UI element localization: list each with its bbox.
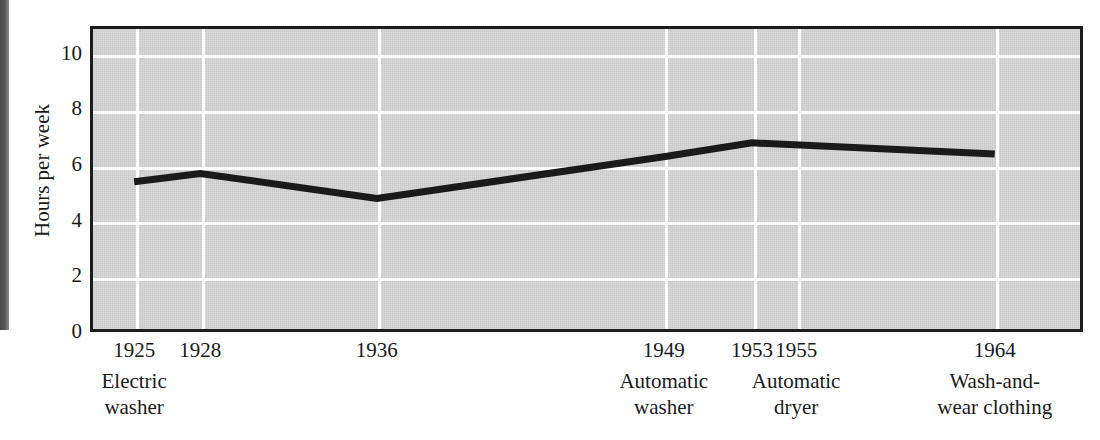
x-tick-label: 1925: [113, 339, 155, 361]
y-tick-label: 6: [42, 154, 82, 175]
y-tick-label: 4: [42, 210, 82, 231]
caption-line: wear clothing: [937, 394, 1052, 420]
caption-line: Automatic: [619, 368, 708, 394]
y-tick-label: 10: [42, 43, 82, 64]
x-tick-label: 1953: [731, 339, 773, 361]
x-tick-label: 1936: [356, 339, 398, 361]
x-axis-event-caption: Electricwasher: [101, 368, 166, 420]
x-tick-label: 1964: [974, 339, 1016, 361]
y-axis-tick-labels: 10 8 6 4 2 0: [30, 0, 82, 440]
caption-line: Automatic: [752, 368, 841, 394]
x-axis-event-caption: Wash-and-wear clothing: [937, 368, 1052, 420]
caption-line: washer: [619, 394, 708, 420]
caption-line: dryer: [752, 394, 841, 420]
caption-line: washer: [101, 394, 166, 420]
caption-line: Electric: [101, 368, 166, 394]
x-tick-label: 1949: [643, 339, 685, 361]
y-tick-label: 2: [42, 265, 82, 286]
x-tick-label: 1955: [775, 339, 817, 361]
series-line-hours-per-week: [93, 29, 1080, 329]
x-axis-event-caption: Automaticwasher: [619, 368, 708, 420]
y-tick-label: 8: [42, 98, 82, 119]
y-tick-label: 0: [42, 321, 82, 342]
chart-figure: Hours per week 10 8 6 4 2 0 192519281936…: [0, 0, 1100, 440]
caption-line: Wash-and-: [937, 368, 1052, 394]
plot-area: [90, 26, 1083, 332]
x-tick-label: 1928: [179, 339, 221, 361]
x-axis-event-caption: Automaticdryer: [752, 368, 841, 420]
